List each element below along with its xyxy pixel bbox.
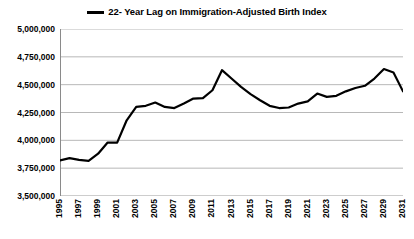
- x-axis-tick-label: 2017: [265, 199, 274, 218]
- x-axis-tick-label: 2027: [360, 199, 369, 218]
- legend-line-swatch-icon: [87, 11, 104, 14]
- x-axis-tick-label: 2007: [169, 199, 178, 218]
- x-axis-tick-label: 1999: [93, 199, 102, 218]
- chart-legend: 22- Year Lag on Immigration-Adjusted Bir…: [0, 4, 414, 20]
- x-axis-tick-label: 2031: [398, 199, 407, 218]
- y-axis-tick-label: 3,750,000: [17, 164, 55, 173]
- plot-area: [60, 29, 403, 196]
- x-axis-tick-label: 2005: [150, 199, 159, 218]
- y-axis-tick-label: 4,500,000: [17, 80, 55, 89]
- y-axis-tick-label: 3,500,000: [17, 192, 55, 201]
- chart-container: 22- Year Lag on Immigration-Adjusted Bir…: [0, 0, 414, 239]
- x-axis-tick-label: 2019: [284, 199, 293, 218]
- x-axis-tick-label: 2009: [188, 199, 197, 218]
- legend-label: 22- Year Lag on Immigration-Adjusted Bir…: [108, 7, 326, 17]
- x-axis-tick-label: 2025: [341, 199, 350, 218]
- x-axis-tick-label: 1995: [55, 199, 64, 218]
- x-axis-tick-label: 2011: [207, 199, 216, 217]
- x-axis-tick-label: 2029: [379, 199, 388, 218]
- x-axis-tick-label: 2013: [227, 199, 236, 218]
- data-series-line: [60, 69, 403, 161]
- chart-plot-svg: [60, 29, 403, 196]
- x-axis-tick-label: 2021: [303, 199, 312, 218]
- y-axis-tick-label: 5,000,000: [17, 25, 55, 34]
- x-axis-tick-label: 2003: [131, 199, 140, 218]
- x-axis-tick-label: 2023: [322, 199, 331, 218]
- y-axis-tick-label: 4,750,000: [17, 53, 55, 62]
- y-axis-tick-label: 4,250,000: [17, 108, 55, 117]
- x-axis-tick-label: 2001: [112, 199, 121, 218]
- y-axis-tick-label: 4,000,000: [17, 136, 55, 145]
- y-axis: 5,000,0004,750,0004,500,0004,250,0004,00…: [0, 0, 58, 239]
- gridlines: [60, 29, 403, 196]
- x-axis-tick-label: 1997: [74, 199, 83, 218]
- x-axis-tick-label: 2015: [246, 199, 255, 218]
- x-axis: 1995199719992001200320052007200920112013…: [60, 199, 403, 239]
